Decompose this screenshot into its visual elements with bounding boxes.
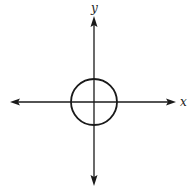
x-axis-label: x [180,95,187,109]
coordinate-plane-diagram: x y [0,0,192,188]
y-axis-label: y [90,1,98,15]
